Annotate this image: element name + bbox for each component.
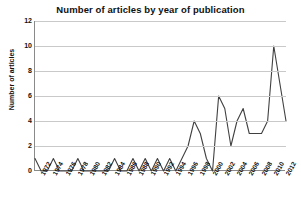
gridline-y-6 (35, 96, 286, 97)
y-tick-label-4: 4 (6, 117, 32, 124)
x-axis-labels: 1972197419761978198019821984198619881990… (34, 173, 285, 218)
gridline-y-4 (35, 121, 286, 122)
y-tick-label-12: 12 (6, 17, 32, 24)
y-tick-label-2: 2 (6, 142, 32, 149)
line-chart: Number of articles by year of publicatio… (0, 0, 301, 218)
gridline-y-2 (35, 146, 286, 147)
y-axis-ticks: 024681012 (0, 21, 32, 171)
gridline-y-8 (35, 71, 286, 72)
y-tick-label-0: 0 (6, 167, 32, 174)
series-polyline (35, 46, 286, 171)
y-tick-label-6: 6 (6, 92, 32, 99)
gridline-y-12 (35, 21, 286, 22)
y-tick-label-8: 8 (6, 67, 32, 74)
plot-area (34, 21, 285, 171)
y-tick-label-10: 10 (6, 42, 32, 49)
chart-title: Number of articles by year of publicatio… (0, 4, 301, 15)
gridline-y-10 (35, 46, 286, 47)
